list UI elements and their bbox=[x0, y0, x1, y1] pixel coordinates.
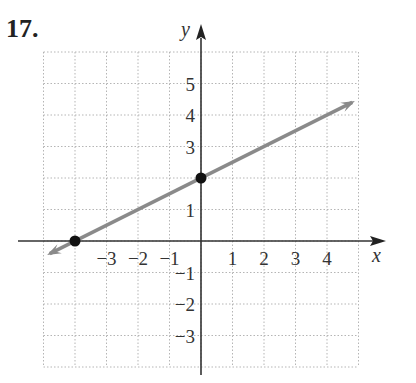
y-intercept-point bbox=[196, 173, 207, 184]
x-intercept-point bbox=[70, 236, 81, 247]
y-tick-label: 4 bbox=[186, 105, 196, 126]
x-tick-label: 2 bbox=[259, 248, 269, 269]
x-tick-label: −2 bbox=[128, 248, 148, 269]
y-tick-label: 5 bbox=[186, 74, 196, 95]
x-tick-label: −3 bbox=[96, 248, 116, 269]
y-tick-label: 1 bbox=[186, 200, 196, 221]
y-axis-label: y bbox=[179, 18, 190, 41]
axes: xy bbox=[18, 18, 386, 375]
y-tick-label: −1 bbox=[175, 263, 195, 284]
coordinate-plane: xy −3−2−112345431−1−2−3 bbox=[0, 0, 416, 383]
y-axis-arrow-icon bbox=[196, 24, 206, 40]
x-tick-label: 3 bbox=[291, 248, 301, 269]
y-tick-label: −2 bbox=[175, 294, 195, 315]
y-tick-label: −3 bbox=[175, 326, 195, 347]
x-tick-label: 1 bbox=[228, 248, 238, 269]
x-axis-label: x bbox=[371, 244, 381, 266]
y-tick-label: 3 bbox=[186, 137, 196, 158]
x-tick-label: 4 bbox=[322, 248, 332, 269]
